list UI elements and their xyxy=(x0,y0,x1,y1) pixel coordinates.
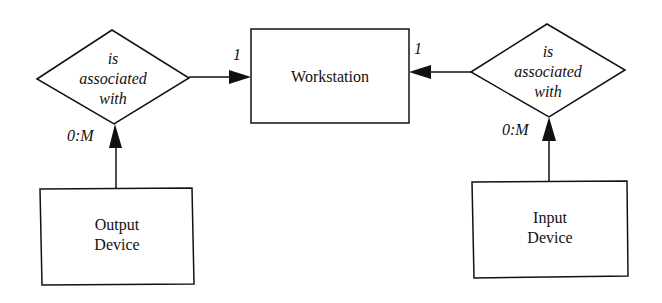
relationship-left[interactable]: is associated with xyxy=(37,30,189,124)
entity-input-device[interactable]: Input Device xyxy=(472,181,628,278)
arrowhead-icon xyxy=(409,65,431,79)
arrowhead-icon xyxy=(109,124,122,148)
cardinality-label: 0:M xyxy=(502,121,530,138)
arrowhead-icon xyxy=(229,70,251,84)
arrowhead-icon xyxy=(542,117,556,141)
entity-output-device[interactable]: Output Device xyxy=(40,188,194,285)
entity-label-line-2: Device xyxy=(94,236,139,253)
connector-output-to-relationship: 0:M xyxy=(67,124,122,189)
entity-label-line-2: Device xyxy=(527,229,572,246)
cardinality-label: 1 xyxy=(233,46,241,63)
entity-workstation[interactable]: Workstation xyxy=(251,29,409,123)
entity-label-line-1: Input xyxy=(533,209,567,227)
connector-input-to-relationship: 0:M xyxy=(502,117,556,181)
entity-label: Workstation xyxy=(291,68,369,85)
entity-label-line-1: Output xyxy=(95,216,140,234)
cardinality-label: 0:M xyxy=(67,127,95,144)
relationship-label-line-2: associated xyxy=(514,63,583,80)
relationship-label-line-1: is xyxy=(543,43,554,60)
relationship-right[interactable]: is associated with xyxy=(471,24,625,117)
relationship-label-line-3: with xyxy=(534,83,562,100)
connector-left-to-workstation: 1 xyxy=(189,46,251,84)
cardinality-label: 1 xyxy=(414,40,422,57)
relationship-label-line-1: is xyxy=(108,50,119,67)
relationship-label-line-3: with xyxy=(99,90,127,107)
er-diagram: Workstation is associated with 1 0:M Out… xyxy=(0,0,662,303)
connector-right-to-workstation: 1 xyxy=(409,40,471,79)
relationship-label-line-2: associated xyxy=(79,70,148,87)
